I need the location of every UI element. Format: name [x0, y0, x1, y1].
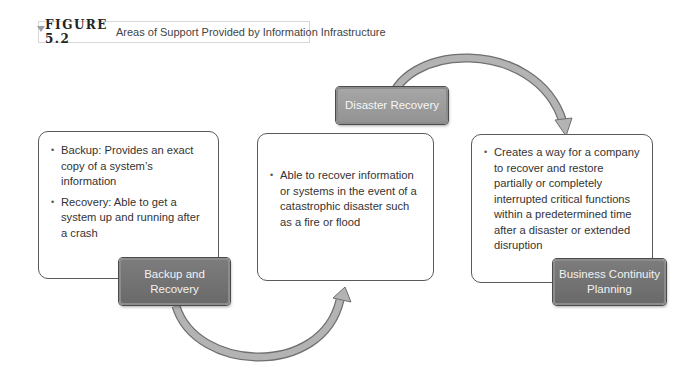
label-line: Recovery [150, 282, 199, 297]
label-business-continuity-planning: Business Continuity Planning [553, 259, 666, 305]
bullet-item: Able to recover information or systems i… [270, 168, 421, 230]
card-backup-and-recovery: Backup: Provides an exact copy of a syst… [38, 131, 219, 279]
label-line: Planning [587, 282, 632, 297]
label-line: Disaster Recovery [345, 98, 439, 113]
bullet-item: Creates a way for a company to recover a… [484, 145, 642, 254]
label-line: Business Continuity [559, 267, 660, 282]
label-backup-and-recovery: Backup and Recovery [119, 258, 230, 305]
card-disaster-recovery: Able to recover information or systems i… [257, 133, 434, 281]
bullet-item: Backup: Provides an exact copy of a syst… [51, 143, 206, 190]
bullet-list: Creates a way for a company to recover a… [484, 145, 642, 254]
label-line: Backup and [144, 267, 205, 282]
bullet-list: Backup: Provides an exact copy of a syst… [51, 143, 206, 241]
bullet-list: Able to recover information or systems i… [270, 168, 421, 230]
bullet-item: Recovery: Able to get a system up and ru… [51, 195, 206, 242]
label-disaster-recovery: Disaster Recovery [336, 87, 448, 124]
